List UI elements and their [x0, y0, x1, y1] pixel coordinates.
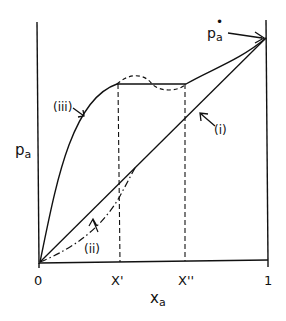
bottom-axis — [39, 260, 268, 263]
y-axis-label: pa — [15, 141, 31, 161]
left-axis — [37, 22, 39, 264]
vdw-loop — [117, 76, 186, 90]
curve-iii-label: (iii) — [53, 100, 72, 114]
right-axis — [266, 20, 268, 262]
arrow-pstar-icon — [228, 32, 264, 43]
pstar-dot: • — [216, 15, 223, 29]
tick-label-0: 0 — [34, 273, 42, 288]
curve-i-line — [40, 38, 266, 262]
tick-label-1: 1 — [264, 273, 272, 288]
tick-label-x1: X' — [111, 273, 123, 288]
tick-label-x2: X'' — [178, 273, 194, 288]
x-axis-label: xa — [150, 289, 166, 309]
x-prime-dashed — [118, 84, 120, 262]
arrow-i-icon — [200, 113, 215, 126]
curve-ii-label: (ii) — [84, 242, 100, 256]
arrow-iii-icon — [73, 108, 84, 117]
phase-diagram: pa • (i) (ii) (iii) pa xa 0 X' X'' 1 — [0, 0, 286, 321]
curve-i-label: (i) — [214, 123, 227, 137]
